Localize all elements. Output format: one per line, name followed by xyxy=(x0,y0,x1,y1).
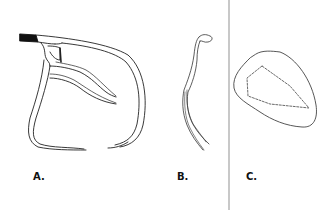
dashed-lumen xyxy=(247,66,309,108)
upper-loop xyxy=(48,46,60,60)
panel-divider xyxy=(228,0,230,210)
panel-b-label: B. xyxy=(177,172,188,182)
branch-2-lower-edge xyxy=(50,78,116,104)
panel-c-drawing xyxy=(234,51,317,127)
bottom-right-tip xyxy=(108,142,128,148)
panel-c-label: C. xyxy=(246,172,257,182)
panel-b-drawing xyxy=(183,35,212,150)
main-vessel-inner-edge xyxy=(62,43,139,145)
vessel-hook-top xyxy=(199,35,212,43)
panel-a-drawing xyxy=(20,34,145,150)
left-trunk-inner xyxy=(29,60,86,150)
figure: A. B. C. xyxy=(0,0,334,216)
vessel-ostium-cap xyxy=(20,34,38,42)
branch-1-upper-edge xyxy=(50,66,116,97)
outer-boundary xyxy=(234,51,317,127)
panel-a-label: A. xyxy=(33,172,45,182)
figure-drawing xyxy=(0,0,334,216)
